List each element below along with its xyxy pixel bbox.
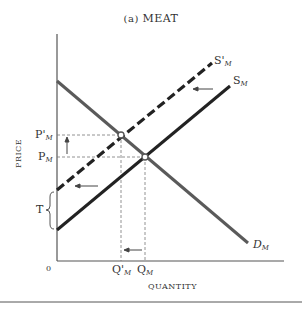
chart-title: (a) MEAT — [0, 12, 302, 25]
tax-brace-icon — [46, 192, 54, 229]
shifted-supply-curve — [57, 63, 212, 190]
shifted-supply-label: S'M — [214, 54, 232, 68]
x-axis-label: QUANTITY — [148, 282, 197, 291]
origin-label: 0 — [46, 264, 51, 273]
price-original-label: PM — [38, 150, 53, 164]
price-after-tax-label: P'M — [35, 128, 53, 142]
supply-label: SM — [233, 74, 248, 88]
price-up-arrow-icon — [65, 137, 69, 154]
equilibrium-after-tax-marker — [118, 132, 124, 138]
quantity-original-label: QM — [137, 263, 153, 277]
quantity-after-tax-label: Q'M — [112, 263, 131, 277]
quantity-left-arrow-icon — [124, 248, 142, 252]
demand-label: DM — [253, 238, 269, 252]
equilibrium-original-marker — [142, 154, 148, 160]
title-prefix: (a) — [124, 13, 139, 24]
demand-curve — [57, 81, 248, 243]
y-axis-label: PRICE — [14, 139, 23, 168]
tax-label: T — [36, 203, 43, 216]
supply-shift-arrow-icon — [193, 87, 213, 91]
lower-shift-arrow-icon — [75, 184, 98, 188]
title-text: MEAT — [142, 12, 178, 25]
